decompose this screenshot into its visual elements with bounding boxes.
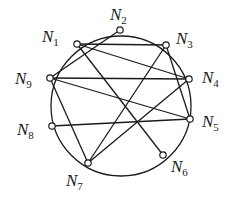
node-n9 bbox=[47, 75, 53, 81]
node-n2 bbox=[117, 27, 123, 33]
edge-n9-n7 bbox=[50, 78, 88, 163]
edge-n9-n4 bbox=[50, 78, 189, 79]
edge-n4-n7 bbox=[88, 79, 189, 163]
node-n1 bbox=[74, 41, 80, 47]
label-n2: N2 bbox=[109, 5, 127, 26]
label-n8: N8 bbox=[16, 120, 34, 141]
label-n7: N7 bbox=[65, 171, 83, 192]
label-n3: N3 bbox=[175, 29, 193, 50]
node-n7 bbox=[85, 160, 91, 166]
label-n6: N6 bbox=[170, 157, 188, 178]
node-n4 bbox=[186, 76, 192, 82]
label-n4: N4 bbox=[201, 68, 219, 89]
node-n8 bbox=[49, 123, 55, 129]
network-graph-diagram: N1N2N3N4N5N6N7N8N9 bbox=[0, 0, 237, 197]
edge-n8-n5 bbox=[52, 119, 190, 126]
edge-n9-n5 bbox=[50, 78, 190, 119]
edge-n1-n6 bbox=[77, 44, 163, 155]
edges-group bbox=[50, 30, 190, 163]
edge-n1-n4 bbox=[77, 44, 189, 79]
label-n1: N1 bbox=[41, 27, 59, 48]
nodes-group bbox=[47, 27, 193, 166]
label-n5: N5 bbox=[201, 112, 219, 133]
edge-n3-n7 bbox=[88, 45, 166, 163]
label-n9: N9 bbox=[14, 69, 32, 90]
node-n3 bbox=[163, 42, 169, 48]
node-n6 bbox=[160, 152, 166, 158]
node-n5 bbox=[187, 116, 193, 122]
